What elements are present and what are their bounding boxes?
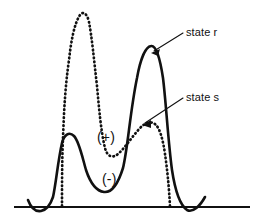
wavefunction-figure: state r state s (+) (-)	[0, 0, 260, 222]
negative-region-label: (-)	[102, 172, 117, 186]
state-s-label: state s	[186, 92, 219, 103]
positive-region-label: (+)	[97, 130, 115, 144]
state-r-leader	[151, 33, 183, 56]
figure-canvas	[0, 0, 260, 222]
state-s-leader	[142, 98, 183, 128]
state-r-label: state r	[186, 27, 217, 38]
